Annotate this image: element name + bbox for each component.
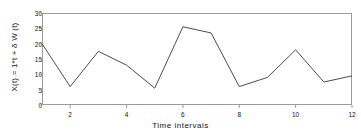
plot-background: [42, 13, 352, 105]
x-axis-tick-label: 8: [237, 111, 241, 118]
x-axis-tick-label: 2: [68, 111, 72, 118]
x-axis-label: Time intervals: [0, 121, 361, 130]
x-axis-tick-label: 12: [348, 111, 355, 118]
x-axis-tick-label: 6: [181, 111, 185, 118]
x-axis-tick-label: 10: [292, 111, 299, 118]
x-axis-tick-label: 4: [125, 111, 129, 118]
x-axis-tick-labels: 24681012: [0, 106, 361, 120]
chart-figure: X(t) = 1*t + δ W (t) 051015202530 246810…: [0, 0, 361, 140]
